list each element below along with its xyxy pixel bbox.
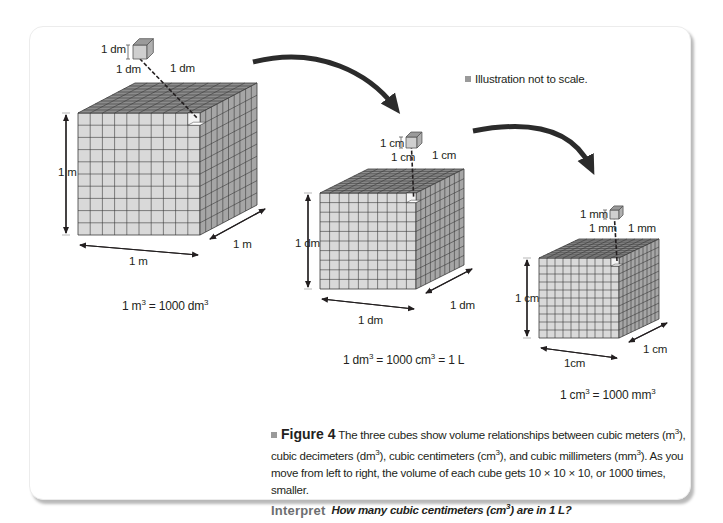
cube3-equation: 1 cm3 = 1000 mm3: [560, 387, 655, 402]
cube2-depth-label: 1 dm: [450, 299, 475, 311]
cube2-small-width-label: 1 cm: [391, 151, 415, 163]
arrow-2-icon: [473, 127, 590, 166]
cube1-height-label: 1 m: [58, 166, 77, 178]
interpret-label: Interpret: [271, 502, 326, 517]
cube2-small-depth-label: 1 cm: [432, 149, 456, 161]
cube1-width-label: 1 m: [129, 255, 148, 267]
cube3-small-depth-label: 1 mm: [628, 222, 656, 234]
arrow-1-icon: [253, 57, 394, 106]
cube3-depth-label: 1 cm: [643, 343, 667, 355]
cube2-small-height-label: 1 cm: [380, 137, 404, 149]
cube3-height-label: 1 cm: [515, 292, 539, 304]
cube1-small-height-label: 1 dm: [101, 43, 126, 55]
figure-label: Figure 4: [281, 426, 335, 442]
cube1-small-width-label: 1 dm: [170, 62, 195, 74]
cube2-height-label: 1 dm: [295, 237, 320, 249]
figure-caption: Figure 4 The three cubes show volume rel…: [271, 423, 691, 519]
interpret-question: How many cubic centimeters (cm3) are in …: [331, 504, 571, 516]
bullet-icon: [465, 76, 471, 82]
caption-bullet-icon: [271, 432, 277, 438]
cube1-small-depth-label: 1 dm: [116, 63, 141, 75]
cube2-width-label: 1 dm: [358, 314, 383, 326]
not-to-scale-note: Illustration not to scale.: [465, 73, 587, 85]
cube3-small-width-label: 1 mm: [589, 222, 617, 234]
cube3-small-height-label: 1 mm: [580, 208, 608, 220]
cube1-equation: 1 m3 = 1000 dm3: [122, 298, 208, 313]
cube1-depth-label: 1 m: [233, 238, 252, 250]
cube3-width-label: 1cm: [564, 357, 585, 369]
cube2-equation: 1 dm3 = 1000 cm3 = 1 L: [343, 352, 464, 367]
